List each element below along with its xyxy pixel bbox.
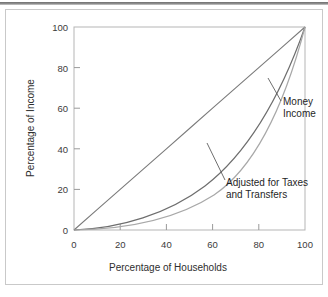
x-tick-label-20: 20: [115, 239, 126, 250]
lorenz-curve-figure: 100 80 60 40 20 0 0 20 40 60 80 100 Perc…: [0, 0, 328, 297]
y-tick-label-80: 80: [57, 63, 68, 74]
x-tick-label-100: 100: [297, 239, 313, 250]
adjusted-label-line1: Adjusted for Taxes: [226, 177, 308, 188]
y-axis-title: Percentage of Income: [25, 79, 36, 177]
y-tick-label-20: 20: [57, 184, 68, 195]
annotation-money-income: Money Income: [283, 96, 316, 119]
adjusted-label-line2: and Transfers: [226, 189, 287, 200]
money-income-label-line1: Money: [283, 96, 313, 107]
x-tick-label-80: 80: [254, 239, 265, 250]
x-tick-labels: 0 20 40 60 80 100: [71, 239, 313, 250]
x-tick-label-0: 0: [71, 239, 76, 250]
x-tick-label-40: 40: [161, 239, 172, 250]
y-tick-label-100: 100: [52, 22, 68, 33]
money-income-label-line2: Income: [283, 108, 316, 119]
y-tick-label-60: 60: [57, 103, 68, 114]
chart-canvas: 100 80 60 40 20 0 0 20 40 60 80 100 Perc…: [0, 0, 328, 297]
y-tick-label-0: 0: [63, 225, 68, 236]
y-tick-labels: 100 80 60 40 20 0: [52, 22, 68, 236]
x-tick-label-60: 60: [207, 239, 218, 250]
y-tick-label-40: 40: [57, 144, 68, 155]
x-axis-title: Percentage of Households: [109, 262, 227, 273]
